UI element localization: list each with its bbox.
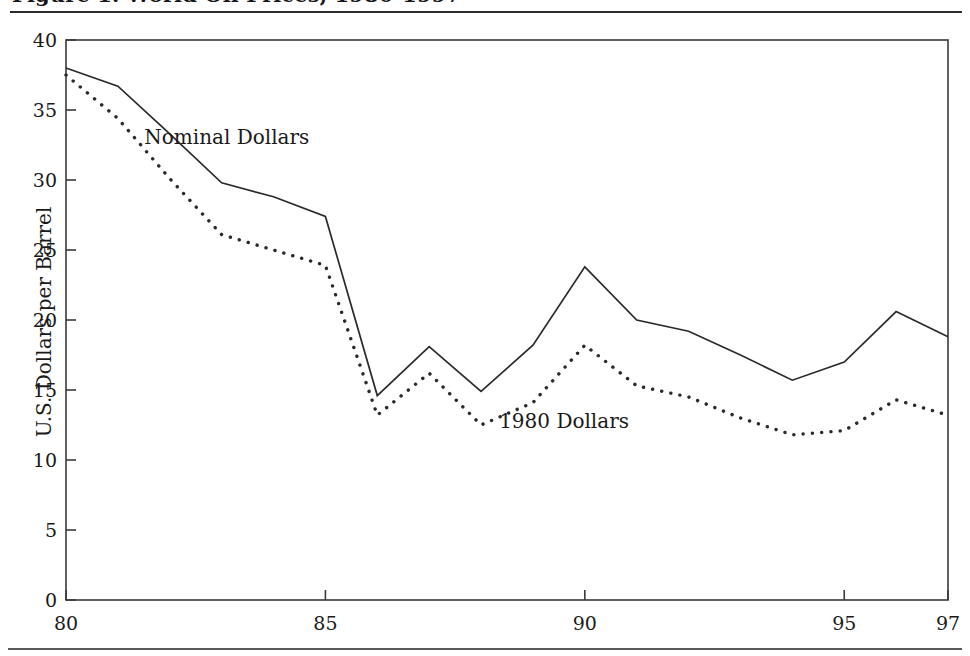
chart-figure: U.S. Dollars per Barrel 0510152025303540… xyxy=(0,14,970,644)
figure-page: Figure 1. World Oil Prices, 1980-1997 U.… xyxy=(0,0,970,656)
y-tick-label: 30 xyxy=(33,169,57,191)
x-tick-label: 80 xyxy=(54,612,78,634)
y-tick-label: 15 xyxy=(33,379,57,401)
footer-divider-rule xyxy=(8,648,962,650)
x-tick-label: 85 xyxy=(313,612,337,634)
y-tick-label: 5 xyxy=(45,519,57,541)
y-tick-label: 0 xyxy=(45,589,57,611)
series-line-nominal-dollars xyxy=(66,68,948,396)
title-divider-rule xyxy=(10,11,962,13)
series-annotation: Nominal Dollars xyxy=(144,125,309,149)
line-chart: 05101520253035408085909597Nominal Dollar… xyxy=(0,14,970,644)
y-tick-label: 35 xyxy=(33,99,57,121)
x-tick-label: 97 xyxy=(936,612,960,634)
y-tick-label: 20 xyxy=(33,309,57,331)
y-tick-label: 10 xyxy=(33,449,57,471)
y-tick-label: 25 xyxy=(33,239,57,261)
x-tick-label: 95 xyxy=(832,612,856,634)
y-tick-label: 40 xyxy=(33,29,57,51)
x-tick-label: 90 xyxy=(573,612,597,634)
page-title: Figure 1. World Oil Prices, 1980-1997 xyxy=(12,0,461,7)
series-annotation: 1980 Dollars xyxy=(499,409,629,433)
